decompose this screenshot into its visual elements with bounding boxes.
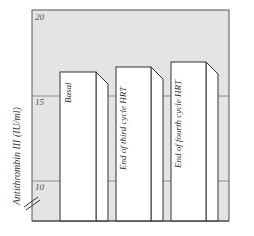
ytick-15: 15 (35, 97, 45, 107)
bar-label: Basal (63, 82, 73, 103)
chart: 20 15 10 Antithrombin III (IU/ml) Basal … (0, 0, 254, 236)
ytick-20: 20 (35, 12, 45, 22)
y-axis-label: Antithrombin III (IU/ml) (11, 106, 23, 206)
bar-fourth-cycle: End of fourth cycle HRT (171, 62, 218, 221)
bar-third-cycle: End of third cycle HRT (116, 67, 163, 221)
ytick-10: 10 (35, 182, 45, 192)
bar-basal: Basal (60, 72, 108, 221)
bar-label: End of third cycle HRT (118, 86, 128, 171)
bar-label: End of fourth cycle HRT (173, 79, 183, 169)
